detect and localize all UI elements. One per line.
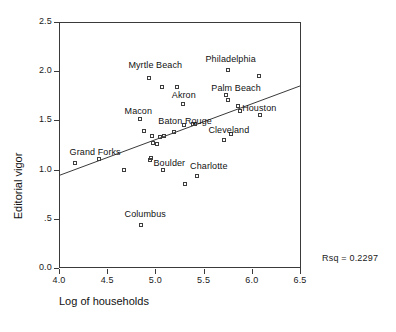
data-point-marker bbox=[122, 168, 126, 172]
scatter-plot-figure: 0.0.51.01.52.02.5 4.04.55.05.56.06.5 Myr… bbox=[0, 0, 396, 332]
data-point-marker bbox=[226, 68, 230, 72]
x-tick-label: 4.5 bbox=[87, 276, 127, 285]
x-tick-mark bbox=[300, 269, 301, 274]
y-tick-label: 2.0 bbox=[12, 66, 52, 75]
y-axis-title: Editorial vigor bbox=[12, 116, 24, 256]
data-point-marker bbox=[183, 182, 187, 186]
plot-frame-right-border bbox=[300, 22, 301, 269]
data-point-label: Philadelphia bbox=[206, 54, 256, 64]
data-point-marker bbox=[224, 93, 228, 97]
x-tick-label: 6.0 bbox=[232, 276, 272, 285]
data-point-label: Cleveland bbox=[208, 125, 249, 135]
data-point-marker bbox=[138, 117, 142, 121]
data-point-marker bbox=[236, 104, 240, 108]
data-point-marker bbox=[226, 98, 230, 102]
data-point-label: Myrtle Beach bbox=[128, 60, 182, 70]
data-point-label: Akron bbox=[172, 90, 196, 100]
data-point-label: Baton Rouge bbox=[158, 116, 212, 126]
data-point-marker bbox=[142, 129, 146, 133]
data-point-marker bbox=[258, 113, 262, 117]
y-tick-label: 0.0 bbox=[12, 263, 52, 272]
data-point-marker bbox=[155, 142, 159, 146]
data-point-label: Columbus bbox=[125, 209, 166, 219]
data-point-marker bbox=[175, 85, 179, 89]
data-point-label: Macon bbox=[125, 106, 153, 116]
data-point-label: Boulder bbox=[153, 158, 185, 168]
x-axis-title: Log of households bbox=[59, 295, 239, 307]
data-point-marker bbox=[222, 138, 226, 142]
x-tick-mark bbox=[59, 269, 60, 274]
data-point-label: Palm Beach bbox=[211, 83, 261, 93]
data-point-marker bbox=[195, 174, 199, 178]
data-point-label: Houston bbox=[242, 103, 276, 113]
data-point-label: Charlotte bbox=[190, 161, 227, 171]
x-tick-label: 5.0 bbox=[135, 276, 175, 285]
x-tick-mark bbox=[107, 269, 108, 274]
y-tick-label: 2.5 bbox=[12, 17, 52, 26]
x-tick-mark bbox=[252, 269, 253, 274]
data-point-marker bbox=[147, 76, 151, 80]
x-tick-label: 4.0 bbox=[39, 276, 79, 285]
data-point-marker bbox=[160, 85, 164, 89]
x-tick-mark bbox=[155, 269, 156, 274]
data-point-label: Grand Forks bbox=[70, 147, 121, 157]
data-point-marker bbox=[181, 102, 185, 106]
data-point-marker bbox=[97, 157, 101, 161]
data-point-marker bbox=[161, 168, 165, 172]
x-tick-label: 5.5 bbox=[184, 276, 224, 285]
data-point-marker bbox=[162, 134, 166, 138]
x-tick-mark bbox=[204, 269, 205, 274]
rsq-annotation: Rsq = 0.2297 bbox=[322, 253, 378, 263]
data-point-marker bbox=[73, 161, 77, 165]
data-point-marker bbox=[150, 134, 154, 138]
data-point-marker bbox=[139, 223, 143, 227]
data-point-marker bbox=[257, 74, 261, 78]
data-point-marker bbox=[149, 156, 153, 160]
data-point-marker bbox=[151, 141, 155, 145]
data-point-marker bbox=[172, 130, 176, 134]
x-tick-label: 6.5 bbox=[280, 276, 320, 285]
regression-fit-line bbox=[59, 22, 300, 268]
